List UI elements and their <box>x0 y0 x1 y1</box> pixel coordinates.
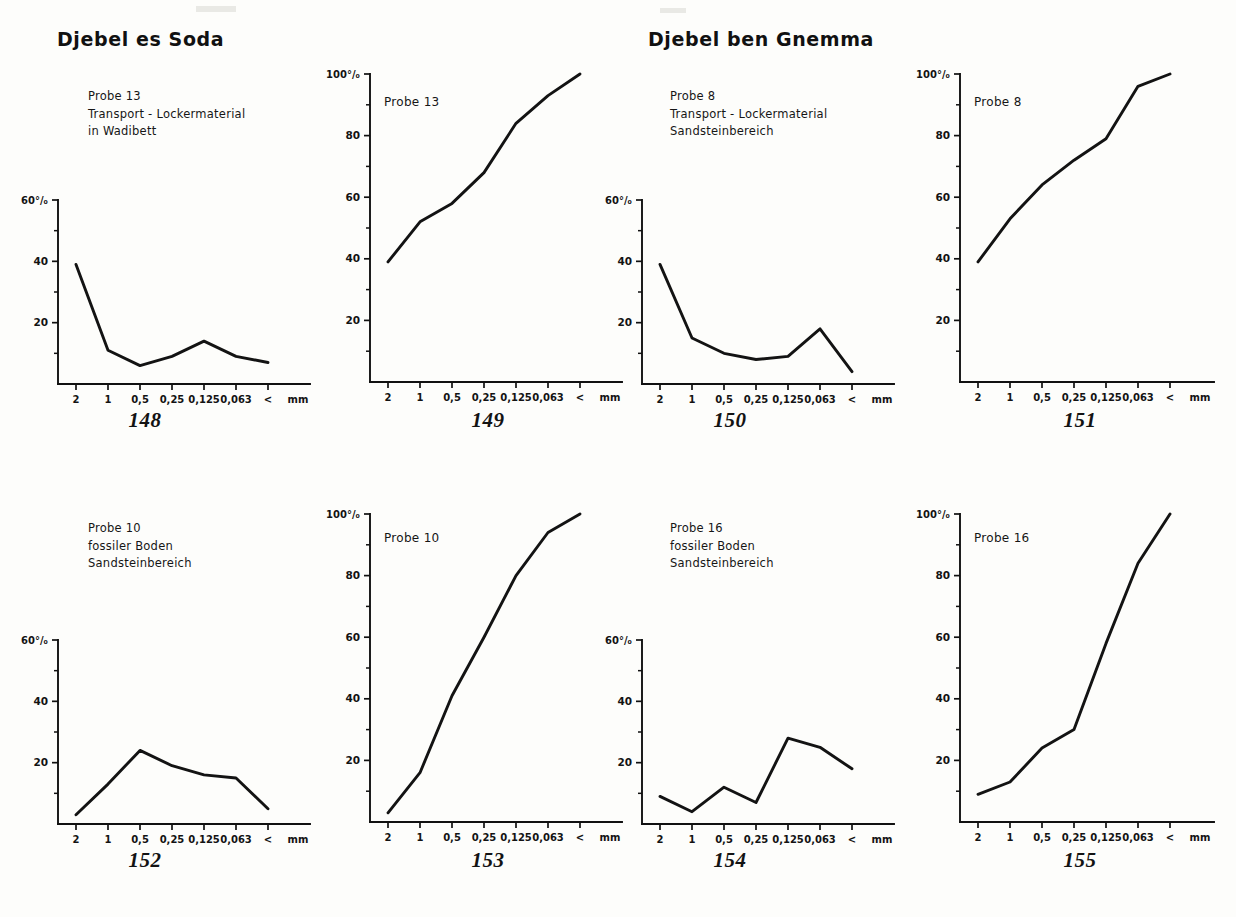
caption-line-2: Transport - Lockermaterial <box>88 106 245 124</box>
y-axis-label: 20 <box>33 316 48 328</box>
plot-area-151: 20406080100°/₀210,50,250,1250,063<mm <box>902 60 1222 458</box>
y-axis-label: 20 <box>345 314 360 326</box>
x-axis-label: < <box>1166 392 1174 403</box>
x-axis-unit-label: mm <box>288 394 309 405</box>
x-axis-label: < <box>576 832 584 843</box>
x-axis-label: 2 <box>975 832 982 843</box>
chart-caption-150: Probe 8 Transport - Lockermaterial Sands… <box>670 88 827 141</box>
scan-artifact <box>660 8 686 13</box>
x-axis-label: < <box>264 394 272 405</box>
x-axis-label: 0,125 <box>500 832 532 843</box>
chart-svg-155: 20406080100°/₀210,50,250,1250,063<mm <box>902 500 1222 898</box>
chart-cell-150: Probe 8 Transport - Lockermaterial Sands… <box>592 60 902 460</box>
chart-svg-153: 20406080100°/₀210,50,250,1250,063<mm <box>310 500 620 898</box>
chart-caption-154: Probe 16 fossiler Boden Sandsteinbereich <box>670 520 774 573</box>
chart-cell-154: Probe 16 fossiler Boden Sandsteinbereich… <box>592 500 902 900</box>
figure-number-149: 149 <box>448 408 528 433</box>
x-axis-label: 0,125 <box>188 394 220 405</box>
data-curve <box>978 514 1170 794</box>
x-axis-label: 2 <box>657 394 664 405</box>
y-axis-label: 100°/₀ <box>326 69 360 80</box>
x-axis-label: 1 <box>1007 392 1014 403</box>
caption-line-2: fossiler Boden <box>88 538 192 556</box>
chart-cell-149: Probe 13 20406080100°/₀210,50,250,1250,0… <box>310 60 620 460</box>
caption-probe: Probe 13 <box>88 88 245 106</box>
y-axis-label: 20 <box>617 316 632 328</box>
x-axis-label: 0,5 <box>1033 832 1051 843</box>
x-axis-label: 0,5 <box>443 832 461 843</box>
x-axis-label: 0,063 <box>1122 832 1154 843</box>
x-axis-label: 1 <box>1007 832 1014 843</box>
data-curve <box>76 264 268 365</box>
y-axis-label: 40 <box>935 252 950 264</box>
x-axis-label: 0,25 <box>1062 392 1087 403</box>
chart-svg-151: 20406080100°/₀210,50,250,1250,063<mm <box>902 60 1222 458</box>
y-axis-label: 80 <box>935 129 950 141</box>
x-axis-label: 0,25 <box>744 394 769 405</box>
y-axis-label: 20 <box>935 754 950 766</box>
x-axis-label: 2 <box>385 832 392 843</box>
x-axis-label: 2 <box>657 834 664 845</box>
y-axis-label: 40 <box>617 255 632 267</box>
y-axis-label: 80 <box>345 569 360 581</box>
x-axis-label: 0,5 <box>443 392 461 403</box>
x-axis-label: 0,25 <box>744 834 769 845</box>
y-axis-label: 20 <box>345 754 360 766</box>
figure-number-152: 152 <box>105 848 185 873</box>
chart-cell-155: Probe 16 20406080100°/₀210,50,250,1250,0… <box>902 500 1222 900</box>
x-axis-label: 0,125 <box>1090 832 1122 843</box>
chart-cell-148: Probe 13 Transport - Lockermaterial in W… <box>0 60 310 460</box>
caption-probe: Probe 16 <box>670 520 774 538</box>
location-title-djebel-ben-gnemma: Djebel ben Gnemma <box>648 28 874 50</box>
x-axis-label: < <box>848 834 856 845</box>
x-axis-label: 1 <box>105 394 112 405</box>
location-title-djebel-es-soda: Djebel es Soda <box>57 28 224 50</box>
y-axis-label: 40 <box>617 695 632 707</box>
chart-cell-153: Probe 10 20406080100°/₀210,50,250,1250,0… <box>310 500 620 900</box>
figure-number-154: 154 <box>690 848 770 873</box>
plot-area-155: 20406080100°/₀210,50,250,1250,063<mm <box>902 500 1222 898</box>
x-axis-label: 2 <box>73 394 80 405</box>
x-axis-label: 0,5 <box>1033 392 1051 403</box>
x-axis-unit-label: mm <box>1190 392 1211 403</box>
scan-artifact <box>196 6 236 12</box>
y-axis-label: 20 <box>935 314 950 326</box>
figure-plate: Djebel es Soda Djebel ben Gnemma Probe 1… <box>0 0 1236 917</box>
y-axis-label: 40 <box>345 252 360 264</box>
x-axis-label: 0,25 <box>472 832 497 843</box>
x-axis-label: 0,063 <box>532 392 564 403</box>
y-axis-label: 60 <box>935 191 950 203</box>
y-axis-label: 60°/₀ <box>21 195 48 206</box>
figure-number-151: 151 <box>1040 408 1120 433</box>
x-axis-label: 0,063 <box>804 834 836 845</box>
x-axis-label: 1 <box>105 834 112 845</box>
x-axis-label: 0,5 <box>715 394 733 405</box>
x-axis-label: 0,25 <box>472 392 497 403</box>
y-axis-label: 40 <box>33 255 48 267</box>
x-axis-label: 0,063 <box>220 394 252 405</box>
caption-line-3: Sandsteinbereich <box>670 123 827 141</box>
data-curve <box>388 514 580 813</box>
x-axis-label: 0,063 <box>804 394 836 405</box>
y-axis-label: 100°/₀ <box>326 509 360 520</box>
y-axis-label: 20 <box>33 756 48 768</box>
x-axis-label: < <box>576 392 584 403</box>
figure-number-148: 148 <box>105 408 185 433</box>
x-axis-label: 0,125 <box>500 392 532 403</box>
chart-cell-151: Probe 8 20406080100°/₀210,50,250,1250,06… <box>902 60 1222 460</box>
x-axis-unit-label: mm <box>1190 832 1211 843</box>
x-axis-label: 2 <box>385 392 392 403</box>
x-axis-label: < <box>1166 832 1174 843</box>
x-axis-label: 1 <box>417 832 424 843</box>
x-axis-label: 0,125 <box>188 834 220 845</box>
chart-svg-149: 20406080100°/₀210,50,250,1250,063<mm <box>310 60 620 458</box>
y-axis-label: 60 <box>935 631 950 643</box>
x-axis-label: 0,5 <box>131 834 149 845</box>
x-axis-label: 2 <box>975 392 982 403</box>
y-axis-label: 80 <box>345 129 360 141</box>
data-curve <box>388 74 580 262</box>
x-axis-label: 2 <box>73 834 80 845</box>
y-axis-label: 20 <box>617 756 632 768</box>
y-axis-label: 60°/₀ <box>605 195 632 206</box>
x-axis-unit-label: mm <box>872 394 893 405</box>
